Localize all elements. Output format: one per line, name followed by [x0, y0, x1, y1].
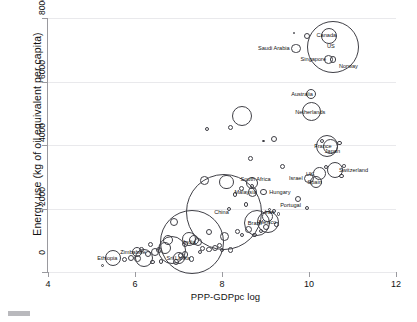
chart-figure: Energy use (kg of oil equivalent per cap… — [0, 0, 417, 322]
data-point-bubble — [271, 136, 277, 142]
data-point-bubble — [205, 127, 209, 131]
data-point-bubble — [248, 156, 253, 161]
y-axis-tick — [42, 82, 47, 83]
x-axis-title-text: PPP-GDPpc log — [191, 291, 260, 302]
x-axis-tick — [135, 272, 136, 277]
x-axis-tick-label: 12 — [391, 279, 401, 289]
data-point-bubble — [150, 260, 154, 264]
data-point-label: Spain — [308, 179, 322, 185]
data-point-label: China — [214, 209, 229, 215]
data-point-label: Hungary — [269, 189, 290, 195]
data-point-bubble — [291, 44, 300, 53]
y-axis-tick — [42, 209, 47, 210]
data-point-label: Sri Lanka — [167, 255, 191, 261]
data-point-label: Malaysia — [234, 189, 256, 195]
data-point-bubble — [101, 264, 104, 267]
plot-area: USCanadaSaudi ArabiaSingaporeNorwayAustr… — [48, 18, 396, 272]
data-point-bubble — [330, 56, 337, 63]
data-point-label: Netherlands — [295, 109, 325, 115]
x-axis-tick-label: 10 — [304, 279, 314, 289]
data-point-label: UK — [306, 171, 314, 177]
x-axis-tick — [48, 272, 49, 277]
gridline — [48, 18, 396, 19]
data-point-bubble — [232, 106, 252, 126]
x-axis-title: PPP-GDPpc log — [0, 291, 417, 302]
data-point-label: Iran — [265, 209, 275, 215]
data-point-label: South Africa — [240, 176, 270, 182]
gridline — [48, 82, 396, 83]
x-axis-tick — [222, 272, 223, 277]
y-axis-tick — [42, 18, 47, 19]
page-artifact-mark — [8, 311, 30, 316]
gridline — [48, 145, 396, 146]
data-point-label: Portugal — [280, 202, 301, 208]
data-point-bubble — [148, 242, 153, 247]
data-point-label: US — [327, 43, 335, 49]
data-point-bubble — [260, 189, 267, 196]
y-axis-tick — [42, 145, 47, 146]
data-point-label: Saudi Arabia — [258, 45, 290, 51]
data-point-label: Ethiopia — [97, 255, 117, 261]
x-axis-tick-label: 6 — [132, 279, 137, 289]
x-axis-tick — [396, 272, 397, 277]
data-point-label: India — [184, 239, 196, 245]
y-axis-tick — [42, 272, 47, 273]
data-point-bubble — [122, 257, 127, 262]
data-point-label: Australia — [291, 91, 313, 97]
x-axis-tick-label: 8 — [219, 279, 224, 289]
data-point-label: Singapore — [301, 56, 327, 62]
data-point-label: Canada — [317, 32, 337, 38]
x-axis-tick — [309, 272, 310, 277]
data-point-label: Switzerland — [339, 167, 368, 173]
data-point-label: Japan — [325, 148, 340, 154]
x-axis-tick-label: 4 — [45, 279, 50, 289]
data-point-label: Zimbabwe — [120, 249, 146, 255]
data-point-label: Mexico — [259, 219, 277, 225]
data-point-label: Norway — [339, 63, 358, 69]
data-point-label: Israel — [289, 175, 303, 181]
